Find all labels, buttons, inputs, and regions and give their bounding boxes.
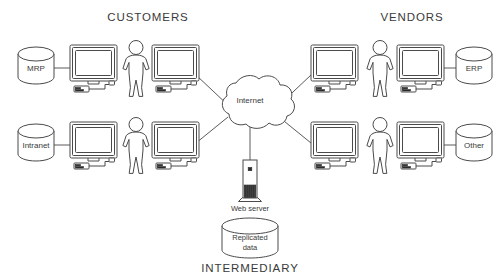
customer-db-intranet[interactable]: Intranet — [18, 124, 54, 161]
customer-workstation-3[interactable] — [70, 122, 117, 169]
vendor-db-erp-label: ERP — [466, 64, 482, 73]
vendor-db-other-label: Other — [464, 141, 484, 150]
vendors-group: VENDORS ERP Other — [311, 11, 492, 173]
vendor-person-1[interactable] — [367, 41, 393, 97]
customer-workstation-2[interactable] — [152, 45, 199, 92]
vendor-db-other[interactable]: Other — [456, 124, 492, 161]
replicated-data-label-line2: data — [243, 243, 258, 252]
vendor-workstation-3[interactable] — [311, 122, 358, 169]
vendor-workstation-1[interactable] — [311, 45, 358, 92]
vendor-workstation-4[interactable] — [397, 122, 444, 169]
customer-workstation-1[interactable] — [70, 45, 117, 92]
customer-person-1[interactable] — [123, 41, 149, 97]
intermediary-heading: INTERMEDIARY — [201, 262, 299, 274]
customers-group: CUSTOMERS MRP Intranet — [18, 11, 199, 173]
customer-workstation-4[interactable] — [152, 122, 199, 169]
customer-db-mrp[interactable]: MRP — [18, 47, 54, 84]
web-server-label: Web server — [231, 204, 270, 213]
replicated-data-db[interactable]: Replicated data — [222, 218, 278, 258]
diagram-canvas: Internet CUSTOMERS MRP Intranet — [0, 0, 493, 277]
vendor-db-erp[interactable]: ERP — [456, 47, 492, 84]
web-server[interactable]: Web server — [231, 160, 270, 213]
vendor-workstation-2[interactable] — [397, 45, 444, 92]
link-customer-bottom-to-internet — [196, 117, 228, 143]
intermediary-group: Web server Replicated data INTERMEDIARY — [201, 160, 299, 274]
vendors-heading: VENDORS — [380, 11, 443, 23]
customer-db-intranet-label: Intranet — [22, 141, 50, 150]
internet-cloud-label: Internet — [236, 96, 264, 105]
internet-cloud[interactable]: Internet — [222, 76, 294, 129]
vendor-person-2[interactable] — [367, 118, 393, 174]
replicated-data-label-line1: Replicated — [232, 233, 267, 242]
customer-person-2[interactable] — [123, 118, 149, 174]
customers-heading: CUSTOMERS — [107, 11, 188, 23]
customer-db-mrp-label: MRP — [27, 64, 45, 73]
